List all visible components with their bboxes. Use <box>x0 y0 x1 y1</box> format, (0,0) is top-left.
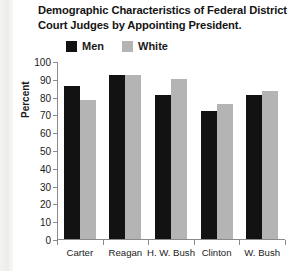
legend-label-white: White <box>138 40 168 52</box>
bar-group <box>201 104 233 239</box>
bar-group <box>109 75 141 239</box>
y-axis-tick-label: 40 <box>40 163 51 174</box>
y-axis-tick-label: 50 <box>40 146 51 157</box>
x-axis-line <box>57 239 285 240</box>
y-axis-tick-mark <box>53 204 58 205</box>
y-axis-tick-mark <box>53 98 58 99</box>
y-axis-tick-label: 90 <box>40 74 51 85</box>
y-axis-tick-label: 20 <box>40 199 51 210</box>
y-axis-tick-label: 30 <box>40 181 51 192</box>
y-axis-tick-label: 100 <box>34 57 51 68</box>
bar-men-reagan <box>109 75 125 239</box>
legend-item-men: Men <box>66 40 104 52</box>
black-square-icon <box>66 41 77 52</box>
bar-white-reagan <box>125 75 141 239</box>
bar-white-hwbush <box>171 79 187 239</box>
bar-group <box>64 86 96 239</box>
y-axis-tick-mark <box>53 151 58 152</box>
bar-white-clinton <box>217 104 233 239</box>
x-axis-tick-mark <box>194 240 195 245</box>
y-axis-tick-label: 70 <box>40 110 51 121</box>
y-axis-tick-mark <box>53 133 58 134</box>
bar-white-carter <box>80 100 96 239</box>
bar-chart-figure: Demographic Characteristics of Federal D… <box>0 0 307 271</box>
legend-label-men: Men <box>82 40 104 52</box>
chart-title: Demographic Characteristics of Federal D… <box>38 3 300 32</box>
bar-men-wbush <box>246 95 262 239</box>
bar-group <box>155 79 187 239</box>
y-axis-tick-mark <box>53 62 58 63</box>
bar-men-hwbush <box>155 95 171 239</box>
bar-group <box>246 91 278 239</box>
x-axis-tick-label: W. Bush <box>244 247 280 258</box>
y-axis-tick-mark <box>53 169 58 170</box>
y-axis-tick-mark <box>53 115 58 116</box>
y-axis-tick-mark <box>53 222 58 223</box>
gray-square-icon <box>122 41 133 52</box>
x-axis-tick-label: Reagan <box>109 247 143 258</box>
y-axis-tick-mark <box>53 80 58 81</box>
y-axis-tick-label: 0 <box>45 235 51 246</box>
bar-men-clinton <box>201 111 217 239</box>
x-axis-tick-label: Clinton <box>202 247 232 258</box>
x-axis-tick-mark <box>239 240 240 245</box>
x-axis-tick-mark <box>285 240 286 245</box>
x-axis-tick-mark <box>148 240 149 245</box>
x-axis-tick-label: Carter <box>66 247 93 258</box>
bar-white-wbush <box>262 91 278 239</box>
bar-men-carter <box>64 86 80 239</box>
y-axis-tick-label: 60 <box>40 128 51 139</box>
y-axis-title: Percent <box>20 81 31 118</box>
chart-legend: Men White <box>66 40 168 52</box>
plot-area: 1009080706050403020100 CarterReaganH. W.… <box>57 62 285 240</box>
y-axis-tick-label: 80 <box>40 92 51 103</box>
legend-item-white: White <box>122 40 168 52</box>
x-axis-tick-mark <box>57 240 58 245</box>
y-axis-tick-label: 10 <box>40 217 51 228</box>
y-axis-tick-mark <box>53 187 58 188</box>
x-axis-tick-label: H. W. Bush <box>147 247 195 258</box>
x-axis-tick-mark <box>103 240 104 245</box>
